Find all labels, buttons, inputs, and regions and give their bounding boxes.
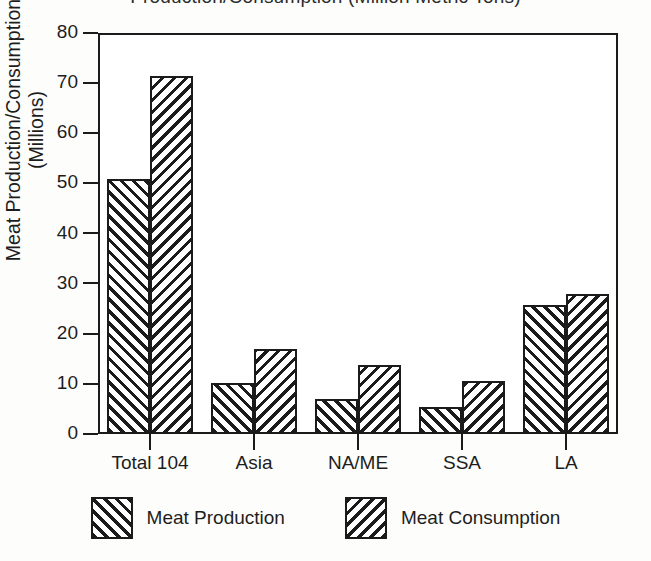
y-axis-tick [83, 182, 98, 184]
x-axis-tick [357, 434, 359, 450]
bar-consumption [358, 365, 401, 434]
y-axis-tick-label: 70 [34, 71, 78, 93]
y-axis-tick-label: 80 [34, 21, 78, 43]
bar-production [211, 383, 254, 434]
y-axis-tick [83, 82, 98, 84]
bar-production [315, 399, 358, 434]
chart-legend: Meat ProductionMeat Consumption [0, 497, 651, 539]
y-axis-label-line-2: (Millions) [25, 0, 48, 310]
y-axis-tick-label: 20 [34, 322, 78, 344]
x-axis-tick [565, 434, 567, 450]
bar-production [107, 179, 150, 434]
bar-consumption [150, 76, 193, 434]
y-axis-tick-label: 10 [34, 372, 78, 394]
y-axis-tick-label: 0 [34, 422, 78, 444]
y-axis-tick [83, 433, 98, 435]
y-axis-tick-label: 30 [34, 272, 78, 294]
x-axis-tick [461, 434, 463, 450]
bar-production [523, 305, 566, 434]
legend-label: Meat Consumption [401, 507, 560, 529]
legend-item: Meat Production [91, 497, 285, 539]
y-axis-label: Meat Production/Consumption (Millions) [2, 0, 62, 310]
bar-consumption [566, 294, 609, 434]
y-axis-tick [83, 282, 98, 284]
x-axis-tick-label: LA [486, 452, 646, 474]
y-axis-tick-label: 60 [34, 121, 78, 143]
bar-series-layer [98, 33, 618, 434]
y-axis-tick [83, 132, 98, 134]
y-axis-tick-label: 40 [34, 222, 78, 244]
chart-title: Production/Consumption (Million Metric T… [0, 0, 651, 8]
y-axis-label-line-1: Meat Production/Consumption [2, 0, 25, 310]
bar-consumption [462, 381, 505, 434]
chart-figure: Production/Consumption (Million Metric T… [0, 0, 651, 561]
legend-swatch [91, 497, 133, 539]
bar-consumption [254, 349, 297, 434]
y-axis-tick [83, 232, 98, 234]
y-axis-tick [83, 32, 98, 34]
x-axis-tick [253, 434, 255, 450]
x-axis-tick [149, 434, 151, 450]
legend-label: Meat Production [147, 507, 285, 529]
y-axis-tick-label: 50 [34, 171, 78, 193]
y-axis-tick [83, 383, 98, 385]
legend-item: Meat Consumption [345, 497, 560, 539]
legend-swatch [345, 497, 387, 539]
y-axis-tick [83, 333, 98, 335]
bar-production [419, 407, 462, 434]
